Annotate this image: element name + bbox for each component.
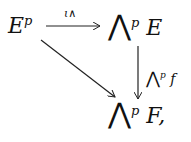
arrows-layer [0,0,191,142]
arrow-diagonal [41,40,115,97]
